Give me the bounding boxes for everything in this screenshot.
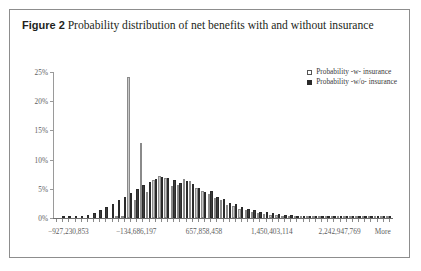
bar	[229, 203, 231, 218]
x-tick-mark	[87, 219, 88, 222]
x-tick-mark	[309, 219, 310, 222]
bar	[309, 216, 311, 218]
x-tick-mark	[105, 219, 106, 222]
bar	[130, 193, 132, 218]
x-tick-mark	[93, 219, 94, 222]
x-tick-mark	[223, 219, 224, 222]
x-tick-mark	[75, 219, 76, 222]
bar	[68, 216, 70, 218]
x-tick-mark	[204, 219, 205, 222]
x-tick-mark	[266, 219, 267, 222]
x-tick-mark	[333, 219, 334, 222]
bar	[333, 216, 335, 218]
x-tick-mark	[186, 219, 187, 222]
bar	[173, 180, 175, 218]
bar	[75, 216, 77, 218]
bar	[198, 188, 200, 218]
bar	[204, 192, 206, 218]
bar	[142, 185, 144, 218]
x-tick-mark	[247, 219, 248, 222]
figure-frame: Figure 2 Probability distribution of net…	[9, 9, 410, 258]
bar	[352, 216, 354, 218]
bar	[136, 189, 138, 218]
bar	[62, 216, 64, 218]
bar	[284, 215, 286, 218]
bar	[327, 216, 329, 218]
bar	[247, 209, 249, 218]
x-tick-mark	[352, 219, 353, 222]
x-tick-label: 657,858,458	[186, 227, 222, 236]
bar	[383, 216, 385, 218]
bar	[321, 216, 323, 218]
x-tick-mark	[216, 219, 217, 222]
y-tick-label: 0%	[38, 214, 48, 223]
x-tick-mark	[124, 219, 125, 222]
bar	[272, 213, 274, 218]
y-tick-label: 25%	[35, 68, 48, 77]
bar	[259, 212, 261, 218]
bar	[161, 177, 163, 218]
bar	[99, 210, 101, 218]
x-tick-mark	[173, 219, 174, 222]
bar	[93, 213, 95, 218]
x-tick-mark	[81, 219, 82, 222]
x-tick-mark	[99, 219, 100, 222]
y-tick-label: 15%	[35, 126, 48, 135]
bar	[315, 216, 317, 218]
x-tick-mark	[364, 219, 365, 222]
x-tick-mark	[118, 219, 119, 222]
y-tick-label: 5%	[38, 184, 48, 193]
x-tick-mark	[179, 219, 180, 222]
bar	[346, 216, 348, 218]
bar	[303, 216, 305, 218]
x-tick-mark	[389, 219, 390, 222]
x-tick-mark	[272, 219, 273, 222]
x-tick-mark	[167, 219, 168, 222]
bar	[370, 216, 372, 218]
x-tick-mark	[229, 219, 230, 222]
x-tick-label: −927,230,853	[48, 227, 89, 236]
x-tick-mark	[198, 219, 199, 222]
x-tick-mark	[377, 219, 378, 222]
bar	[186, 181, 188, 218]
x-tick-mark	[370, 219, 371, 222]
figure-caption: Figure 2 Probability distribution of net…	[22, 18, 382, 33]
x-tick-mark	[142, 219, 143, 222]
x-tick-mark	[56, 219, 57, 222]
bar	[296, 216, 298, 218]
x-tick-label: More	[375, 227, 391, 236]
bar	[149, 182, 151, 218]
x-tick-mark	[68, 219, 69, 222]
bar	[87, 215, 89, 219]
y-tick-mark	[50, 218, 53, 219]
x-tick-label: 1,450,403,114	[251, 227, 293, 236]
x-tick-mark	[62, 219, 63, 222]
x-tick-mark	[130, 219, 131, 222]
bar	[112, 204, 114, 218]
bar	[253, 210, 255, 218]
figure-caption-text: Probability distribution of net benefits…	[68, 19, 374, 32]
x-tick-mark	[241, 219, 242, 222]
bar	[155, 179, 157, 218]
x-tick-mark	[321, 219, 322, 222]
x-tick-mark	[149, 219, 150, 222]
y-tick-label: 10%	[35, 155, 48, 164]
x-tick-mark	[327, 219, 328, 222]
x-tick-mark	[253, 219, 254, 222]
bar	[124, 197, 126, 218]
bar	[81, 216, 83, 218]
bar	[364, 216, 366, 218]
x-tick-mark	[340, 219, 341, 222]
bar	[290, 215, 292, 218]
x-tick-label: −134,686,197	[116, 227, 157, 236]
x-tick-mark	[296, 219, 297, 222]
x-tick-mark	[161, 219, 162, 222]
bar	[167, 178, 169, 218]
x-tick-mark	[346, 219, 347, 222]
bar	[235, 204, 237, 218]
x-tick-label: 2,242,947,769	[319, 227, 361, 236]
bar	[179, 183, 181, 218]
bar-series-container	[53, 72, 392, 218]
bar	[105, 207, 107, 218]
bar	[241, 207, 243, 218]
